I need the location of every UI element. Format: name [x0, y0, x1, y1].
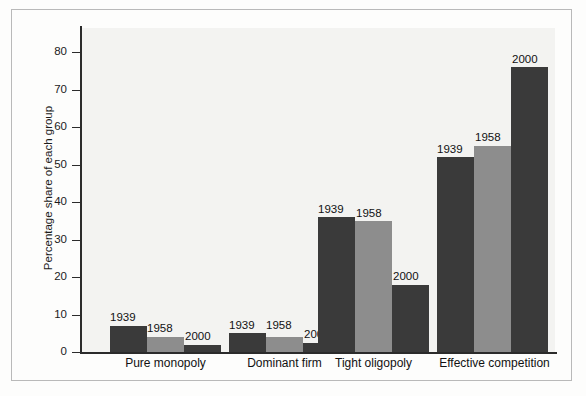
x-axis-line: [80, 352, 557, 354]
bar-pure-monopoly-2000[interactable]: [184, 345, 221, 353]
y-tick-label-0: 0: [41, 346, 67, 358]
bar-pure-monopoly-1939[interactable]: [110, 326, 147, 352]
y-tick-40: 40: [0, 202, 81, 203]
y-tick-label-20: 20: [41, 271, 67, 283]
y-tick-label-40: 40: [41, 196, 67, 208]
bar-label-effective-competition-1958: 1958: [475, 132, 501, 144]
category-label-effective-competition: Effective competition: [432, 357, 557, 370]
bar-pure-monopoly-1958[interactable]: [147, 337, 184, 352]
bar-label-dominant-firm-1958: 1958: [266, 320, 292, 332]
y-tick-50: 50: [0, 165, 81, 166]
y-tick-20: 20: [0, 277, 81, 278]
bar-label-tight-oligopoly-1958: 1958: [356, 208, 382, 220]
bar-label-pure-monopoly-1958: 1958: [147, 323, 173, 335]
y-tick-label-60: 60: [41, 121, 67, 133]
y-tick-label-30: 30: [41, 234, 67, 246]
y-tick-label-70: 70: [41, 84, 67, 96]
bar-label-dominant-firm-1939: 1939: [229, 320, 255, 332]
category-label-tight-oligopoly: Tight oligopoly: [318, 357, 429, 370]
bar-label-tight-oligopoly-1939: 1939: [318, 204, 344, 216]
y-tick-label-80: 80: [41, 46, 67, 58]
y-tick-label-10: 10: [41, 309, 67, 321]
y-tick-0: 0: [0, 352, 81, 353]
y-tick-30: 30: [0, 240, 81, 241]
bar-effective-competition-2000[interactable]: [511, 67, 548, 352]
y-tick-10: 10: [0, 315, 81, 316]
bar-label-tight-oligopoly-2000: 2000: [393, 271, 419, 283]
bar-tight-oligopoly-2000[interactable]: [392, 285, 429, 353]
bar-effective-competition-1958[interactable]: [474, 146, 511, 352]
y-tick-label-50: 50: [41, 159, 67, 171]
chart-figure: Percentage share of each group 80 70 60 …: [0, 0, 586, 396]
category-label-pure-monopoly: Pure monopoly: [110, 357, 221, 370]
bar-dominant-firm-1958[interactable]: [266, 337, 303, 352]
bar-label-pure-monopoly-1939: 1939: [110, 312, 136, 324]
bar-dominant-firm-1939[interactable]: [229, 333, 266, 352]
bar-label-effective-competition-1939: 1939: [437, 144, 463, 156]
bar-label-effective-competition-2000: 2000: [512, 54, 538, 66]
y-tick-60: 60: [0, 127, 81, 128]
y-tick-70: 70: [0, 90, 81, 91]
y-tick-80: 80: [0, 52, 81, 53]
bar-effective-competition-1939[interactable]: [437, 157, 474, 352]
y-axis-line: [80, 26, 82, 353]
bar-tight-oligopoly-1958[interactable]: [355, 221, 392, 352]
bar-tight-oligopoly-1939[interactable]: [318, 217, 355, 352]
bar-label-pure-monopoly-2000: 2000: [185, 331, 211, 343]
